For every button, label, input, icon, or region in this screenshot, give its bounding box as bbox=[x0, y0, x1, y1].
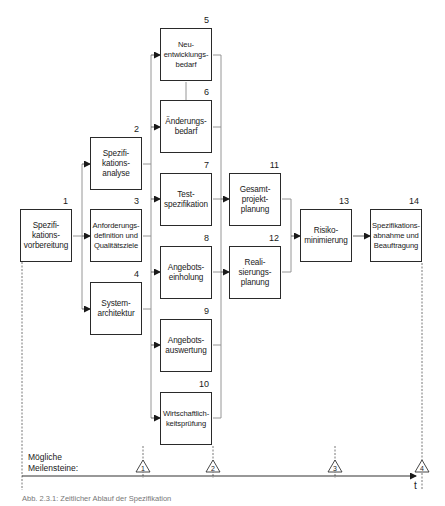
node-11: Gesamt- projekt- planung bbox=[229, 173, 281, 226]
node-3: Anforderungs- definition und Qualitätszi… bbox=[90, 209, 142, 262]
node-5: Neu- entwicklungs- bedarf bbox=[160, 28, 212, 81]
node-10: Wirtschaftlich- keitsprüfung bbox=[160, 392, 212, 445]
node-9-number: 9 bbox=[189, 306, 209, 316]
figure-caption: Abb. 2.3.1: Zeitlicher Ablauf der Spezif… bbox=[22, 494, 171, 503]
node-7-number: 7 bbox=[189, 160, 209, 170]
milestone-3-number: 3 bbox=[333, 463, 337, 474]
node-6: Änderungs- bedarf bbox=[160, 100, 212, 153]
node-6-number: 6 bbox=[189, 87, 209, 97]
node-13: Risiko- minimierung bbox=[300, 209, 352, 262]
node-4: System- architektur bbox=[90, 282, 142, 335]
node-12: Reali- sierungs- planung bbox=[229, 246, 281, 299]
milestone-4-number: 4 bbox=[420, 463, 424, 474]
milestones-label: Mögliche Meilensteine: bbox=[28, 452, 78, 474]
node-12-number: 12 bbox=[259, 233, 279, 243]
node-11-number: 11 bbox=[259, 160, 279, 170]
node-14-number: 14 bbox=[399, 196, 419, 206]
node-8: Angebots- einholung bbox=[160, 246, 212, 299]
node-10-number: 10 bbox=[189, 379, 209, 389]
node-8-number: 8 bbox=[189, 233, 209, 243]
specification-process-diagram: 1 2 3 4 1 Spezifi- kations- vorbereitung… bbox=[0, 0, 445, 506]
node-2: Spezifi- kations- analyse bbox=[90, 137, 142, 190]
node-3-number: 3 bbox=[119, 196, 139, 206]
node-2-number: 2 bbox=[119, 124, 139, 134]
milestone-2-number: 2 bbox=[211, 463, 215, 474]
node-1: Spezifi- kations- vorbereitung bbox=[20, 209, 72, 262]
node-13-number: 13 bbox=[329, 196, 349, 206]
node-1-number: 1 bbox=[48, 196, 68, 206]
milestone-1-number: 1 bbox=[141, 463, 145, 474]
node-4-number: 4 bbox=[119, 269, 139, 279]
node-9: Angebots- auswertung bbox=[160, 319, 212, 372]
node-14: Spezifikations- abnahme und Beauftragung bbox=[370, 209, 422, 262]
node-5-number: 5 bbox=[189, 15, 209, 25]
time-axis-label: t bbox=[414, 480, 417, 491]
node-7: Test- spezifikation bbox=[160, 173, 212, 226]
